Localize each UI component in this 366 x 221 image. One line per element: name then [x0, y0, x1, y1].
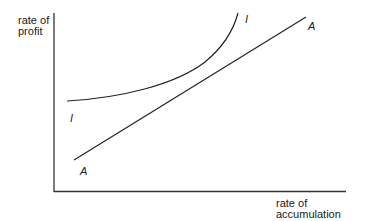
line-a-label-low: A — [80, 166, 87, 177]
curve-i — [67, 13, 238, 101]
curve-i-label-low: I — [70, 113, 73, 124]
diagram-svg — [0, 0, 366, 221]
x-axis-label-line2: accumulation — [276, 209, 341, 220]
y-axis-label: rate of profit — [18, 15, 49, 37]
line-a-label-high: A — [308, 21, 315, 32]
diagram-canvas: rate of profit rate of accumulation I I … — [0, 0, 366, 221]
y-axis-label-line2: profit — [18, 26, 49, 37]
line-a — [74, 17, 306, 160]
x-axis-label: rate of accumulation — [276, 198, 341, 220]
curve-i-label-high: I — [245, 14, 248, 25]
